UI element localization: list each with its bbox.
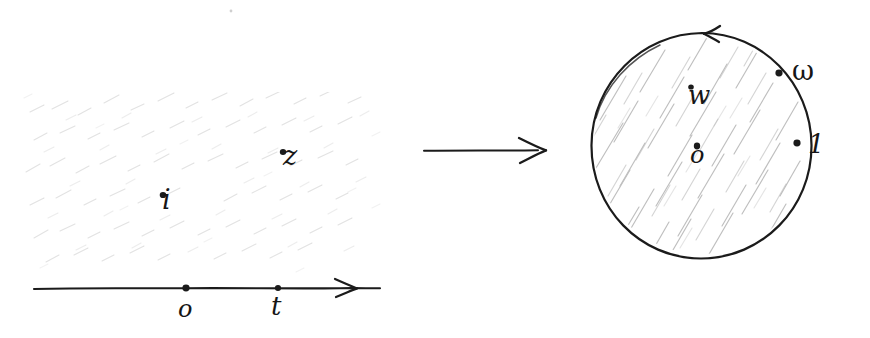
label-i: i	[162, 186, 171, 213]
scan-speck	[230, 10, 233, 13]
label-w: w	[688, 82, 710, 108]
ink-layer	[0, 0, 870, 338]
label-omega: ω	[792, 57, 814, 84]
label-axis-t: t	[271, 293, 281, 319]
label-one: 1	[808, 131, 825, 157]
axis-point-origin	[182, 285, 189, 292]
label-axis-origin: o	[178, 297, 192, 321]
label-disk-origin: o	[690, 143, 704, 167]
label-z: z	[283, 142, 297, 169]
conformal-map-figure: z i o t w o ω 1	[0, 0, 870, 338]
boundary-point-one	[793, 140, 800, 147]
real-axis	[34, 279, 380, 297]
boundary-point-omega	[775, 70, 782, 77]
maps-to-arrow	[424, 138, 546, 163]
